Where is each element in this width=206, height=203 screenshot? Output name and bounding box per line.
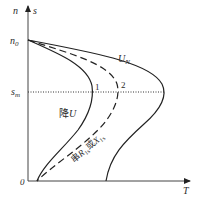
point-1-label: 1: [95, 82, 100, 92]
torque-slip-diagram: n s n0 sm 0 T UN 1 2 降U 串R1s或X1s: [0, 0, 206, 203]
y-axis-label-n: n: [13, 5, 18, 16]
n0-label: n0: [10, 35, 19, 48]
curve-rated-voltage: [28, 40, 164, 181]
curve-label-UN: UN: [118, 53, 130, 66]
point-2-label: 2: [121, 80, 126, 90]
sm-label: sm: [11, 86, 20, 99]
origin-label: 0: [20, 177, 25, 187]
y-axis-label-s: s: [33, 5, 37, 16]
curve-label-reduced-U: 降U: [59, 107, 77, 119]
x-axis-label-T: T: [183, 185, 190, 196]
